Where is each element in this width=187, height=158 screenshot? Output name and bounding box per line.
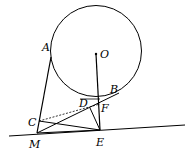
- label-c: C: [28, 116, 37, 129]
- label-a: A: [41, 41, 50, 54]
- circle-o: [51, 6, 142, 97]
- label-m: M: [28, 138, 41, 151]
- label-o: O: [100, 48, 109, 61]
- segment-oe: [96, 54, 100, 130]
- geometry-diagram: A O B D F C M E: [0, 0, 187, 158]
- label-d: D: [78, 97, 88, 110]
- segment-ce: [39, 121, 100, 130]
- label-e: E: [95, 136, 104, 149]
- dashed-segment-cf: [39, 104, 100, 121]
- label-f: F: [100, 102, 109, 115]
- label-b: B: [109, 83, 118, 96]
